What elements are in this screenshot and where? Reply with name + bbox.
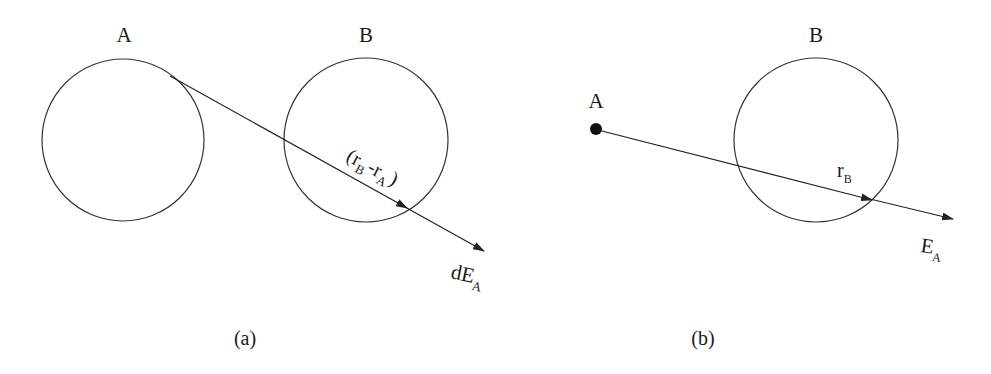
label-sphere-b: B: [809, 23, 823, 47]
position-vector: [598, 130, 872, 200]
svg-text:dEA: dEA: [448, 259, 487, 294]
caption-a: (a): [234, 327, 256, 350]
sphere-a: [42, 59, 204, 221]
field-arrow: [870, 199, 953, 219]
panel-b: A B rB EA (b): [588, 23, 953, 350]
panel-a: A B (rB-rA) dEA (a): [42, 23, 487, 350]
sphere-b: [734, 58, 898, 222]
point-charge-a: [590, 123, 602, 135]
label-sphere-b: B: [359, 23, 373, 47]
caption-b: (b): [691, 327, 714, 350]
svg-text:(rB-rA): (rB-rA): [341, 144, 403, 194]
svg-text:EA: EA: [919, 233, 945, 265]
figure: A B (rB-rA) dEA (a) A B rB EA (: [0, 0, 991, 374]
field-arrow: [405, 207, 484, 251]
field-label-b: EA: [919, 233, 945, 265]
label-point-a: A: [588, 89, 604, 113]
position-label: rB: [837, 159, 852, 186]
sphere-b: [284, 58, 448, 222]
field-label-a: dEA: [448, 259, 487, 294]
separation-vector: [170, 76, 407, 208]
separation-label: (rB-rA): [341, 144, 403, 194]
label-sphere-a: A: [116, 23, 132, 47]
